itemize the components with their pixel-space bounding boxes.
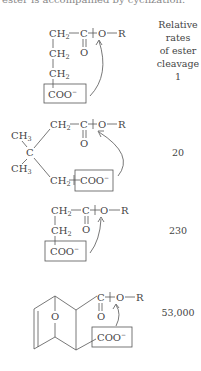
atom-c: C	[80, 119, 88, 130]
atom-ch3-top: CH3	[11, 130, 32, 143]
atom-o-carbonyl: O	[97, 311, 105, 322]
atom-coo: COO−	[97, 331, 126, 343]
header-line-3: of ester	[160, 45, 197, 56]
atom-r: R	[118, 28, 126, 39]
compound-2: CH2 C O R O C CH3 CH3 CH2 COO−	[11, 119, 126, 191]
compound-4: O C O R O COO−	[34, 292, 144, 350]
atom-ch2-2: CH2	[49, 48, 70, 61]
rate-compound-3: 230	[169, 225, 187, 236]
atom-o-carbonyl: O	[80, 138, 88, 149]
atom-c: C	[80, 28, 88, 39]
atom-ch2: CH2	[49, 28, 70, 41]
atom-o-bridge: O	[51, 311, 59, 322]
header-line-2: rates	[166, 32, 191, 43]
rate-compound-2: 20	[172, 147, 184, 158]
atom-ch2-top: CH2	[50, 119, 71, 132]
atom-ch2-2: CH2	[51, 225, 72, 238]
atom-ch3-bottom: CH3	[11, 163, 32, 176]
atom-c: C	[82, 205, 90, 216]
atom-coo: COO−	[48, 88, 77, 100]
atom-o: O	[100, 205, 108, 216]
atom-coo: COO−	[50, 245, 79, 257]
atom-o: O	[98, 28, 106, 39]
atom-ch2: CH2	[51, 205, 72, 218]
atom-r: R	[118, 119, 126, 130]
atom-r: R	[136, 292, 144, 303]
atom-o-carbonyl: O	[80, 47, 88, 58]
header-line-4: cleavage	[157, 58, 200, 69]
atom-ch2-bottom: CH2	[50, 175, 71, 188]
compound-3: CH2 C O R O CH2 COO−	[45, 205, 129, 261]
rate-compound-1: 1	[175, 71, 181, 82]
compound-1: CH2 C O R O CH2 CH2 COO−	[44, 28, 126, 103]
atom-o: O	[116, 292, 124, 303]
atom-c-quaternary: C	[26, 147, 34, 158]
reaction-diagram: Relative rates of ester cleavage CH2 C O…	[0, 0, 201, 371]
header-line-1: Relative	[158, 19, 198, 30]
atom-o-carbonyl: O	[82, 224, 90, 235]
atom-o: O	[98, 119, 106, 130]
rates-header: Relative rates of ester cleavage	[157, 19, 200, 69]
atom-c: C	[97, 292, 105, 303]
atom-coo: COO−	[80, 174, 109, 186]
rate-compound-4: 53,000	[161, 307, 194, 318]
atom-r: R	[121, 205, 129, 216]
atom-ch2-3: CH2	[49, 68, 70, 81]
